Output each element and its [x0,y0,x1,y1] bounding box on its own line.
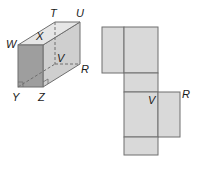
label-w: W [6,38,18,50]
label-r: R [81,63,89,75]
rectangular-prism: T U W X V R Y Z [6,7,89,103]
net-left-flap [102,27,124,73]
net-top-face [124,27,158,73]
net-right-flap [158,92,180,137]
prism-net [102,27,180,155]
net-strip-2 [124,137,158,155]
label-z: Z [37,91,46,103]
net-strip-1 [124,73,158,92]
label-t: T [50,7,58,19]
diagram-canvas: T U W X V R Y Z V R [0,0,199,173]
label-x: X [35,30,44,42]
label-y: Y [12,91,20,103]
label-u: U [76,7,84,19]
prism-front-face [18,45,43,87]
net-label-r: R [182,88,190,100]
